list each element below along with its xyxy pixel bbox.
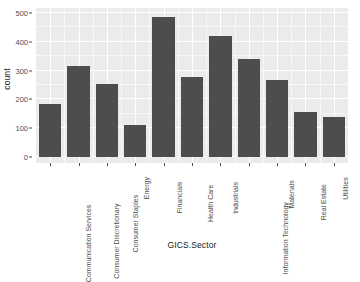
- y-axis-tick-label: 100: [15, 124, 28, 133]
- y-axis-title: count: [0, 0, 14, 157]
- bar[interactable]: [209, 36, 231, 157]
- bar[interactable]: [181, 77, 203, 157]
- bar[interactable]: [238, 59, 260, 157]
- gridline-vertical-minor: [121, 8, 122, 163]
- gridline-vertical-minor: [149, 8, 150, 163]
- x-axis-tick-labels: Communication ServicesConsumer Discretio…: [36, 166, 348, 238]
- bar[interactable]: [124, 125, 146, 157]
- gridline-vertical-minor: [320, 8, 321, 163]
- y-axis-tick-label: 200: [15, 95, 28, 104]
- gridline-vertical-minor: [263, 8, 264, 163]
- bar[interactable]: [323, 117, 345, 157]
- y-axis-tick-mark: [29, 157, 32, 158]
- gridline-vertical-minor: [206, 8, 207, 163]
- gridline-vertical-minor: [64, 8, 65, 163]
- x-axis-tick-label: Industrials: [233, 182, 240, 214]
- bar[interactable]: [294, 112, 316, 157]
- y-axis-tick-label: 500: [15, 8, 28, 17]
- x-axis-tick-label: Financials: [176, 182, 183, 214]
- x-axis-tick-label: Information Technology: [281, 202, 288, 274]
- gridline-vertical-minor: [178, 8, 179, 163]
- bar[interactable]: [67, 66, 89, 157]
- y-axis-tick-label: 0: [24, 153, 28, 162]
- x-axis-tick-label: Energy: [143, 177, 150, 199]
- x-axis-tick-label: Real Estate: [320, 184, 327, 220]
- plot-panel: [36, 8, 348, 163]
- y-axis-tick-mark: [29, 41, 32, 42]
- y-axis-tick-mark: [29, 70, 32, 71]
- x-axis-tick-label: Health Care: [207, 185, 214, 222]
- y-axis-tick-mark: [29, 99, 32, 100]
- gridline-vertical-minor: [93, 8, 94, 163]
- bar[interactable]: [266, 80, 288, 157]
- y-axis-title-text: count: [2, 68, 12, 89]
- x-axis-tick-label: Materials: [288, 180, 295, 208]
- bar[interactable]: [39, 104, 61, 157]
- y-axis-tick-label: 400: [15, 37, 28, 46]
- y-axis-tick-labels: 0100200300400500: [14, 0, 32, 171]
- y-axis-tick-label: 300: [15, 66, 28, 75]
- bar[interactable]: [152, 17, 174, 157]
- x-axis-tick-label: Utilities: [342, 177, 349, 200]
- y-axis-tick-mark: [29, 12, 32, 13]
- y-axis-tick-mark: [29, 128, 32, 129]
- gridline-vertical-minor: [235, 8, 236, 163]
- x-axis-title: GICS.Sector: [36, 240, 348, 250]
- gridline-vertical-minor: [291, 8, 292, 163]
- bar[interactable]: [96, 84, 118, 157]
